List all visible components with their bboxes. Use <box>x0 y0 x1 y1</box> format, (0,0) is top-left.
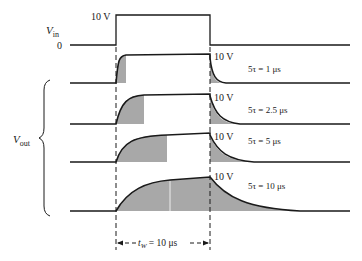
rc-response-diagram: 10 V Vin 0 10 V 5τ = 1 μs 10 V 5τ = 2.5 … <box>0 0 362 261</box>
waveform-2-amplitude: 10 V <box>214 92 234 103</box>
waveform-3-tau: 5τ = 5 μs <box>248 136 281 146</box>
waveform-4-tau: 5τ = 10 μs <box>248 181 286 191</box>
output-brace <box>39 80 50 216</box>
waveform-4-amplitude: 10 V <box>214 171 234 182</box>
input-pulse <box>70 15 350 45</box>
waveform-1-amplitude: 10 V <box>214 51 234 62</box>
pulse-width-label: tW = 10 μs <box>138 238 178 250</box>
input-high-label: 10 V <box>91 11 111 22</box>
waveform-3-amplitude: 10 V <box>214 131 234 142</box>
arrow-right-icon <box>203 241 209 246</box>
waveform-1-tau: 5τ = 1 μs <box>248 64 281 74</box>
input-zero-label: 0 <box>57 40 62 51</box>
output-label: Vout <box>13 133 31 148</box>
arrow-left-icon <box>117 241 123 246</box>
input-label: Vin <box>46 24 59 39</box>
waveform-2-tau: 5τ = 2.5 μs <box>248 105 288 115</box>
